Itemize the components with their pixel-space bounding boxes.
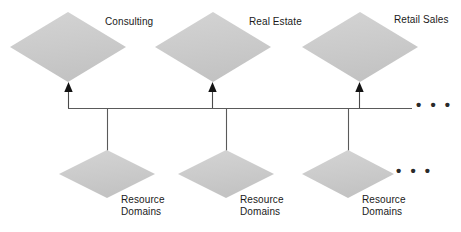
label-resource-domains-1: Resource Domains — [121, 194, 165, 217]
label-consulting: Consulting — [105, 16, 153, 28]
diamond-resource-domains-3[interactable] — [302, 150, 394, 198]
label-resource-domains-1-line1: Resource — [121, 194, 165, 206]
up-arrow-1 — [64, 82, 72, 108]
diamond-resource-domains-2[interactable] — [178, 150, 274, 198]
label-resource-domains-2: Resource Domains — [240, 194, 284, 217]
down-connector-group — [108, 108, 349, 153]
up-arrow-group — [64, 82, 363, 108]
label-real-estate: Real Estate — [249, 16, 302, 28]
label-resource-domains-1-line2: Domains — [121, 206, 165, 218]
bottom-node-shapes — [59, 150, 394, 198]
label-resource-domains-2-line2: Domains — [240, 206, 284, 218]
up-arrow-2 — [208, 82, 216, 108]
label-resource-domains-3: Resource Domains — [362, 194, 406, 217]
up-arrow-3 — [355, 82, 363, 108]
label-resource-domains-3-line1: Resource — [362, 194, 406, 206]
label-resource-domains-2-line1: Resource — [240, 194, 284, 206]
diamond-resource-domains-1[interactable] — [59, 150, 155, 198]
label-retail-sales: Retail Sales — [394, 14, 449, 26]
top-node-shapes — [10, 12, 418, 82]
bottom-continuation-ellipsis: • • • — [396, 163, 433, 178]
bus-continuation-ellipsis: • • • — [416, 97, 453, 112]
label-resource-domains-3-line2: Domains — [362, 206, 406, 218]
diagram-canvas: Consulting Real Estate Retail Sales Reso… — [0, 0, 461, 232]
